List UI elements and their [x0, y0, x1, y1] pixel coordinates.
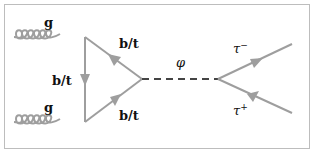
label-quark-left: b/t [52, 74, 72, 87]
label-scalar: φ [176, 56, 185, 69]
gluon-top-line [14, 30, 60, 38]
label-tau-plus: τ+ [233, 103, 248, 117]
label-gluon-bottom: g [44, 101, 53, 114]
label-quark-bottom: b/t [119, 109, 139, 122]
arrow-icon [80, 74, 90, 86]
arrow-icon [110, 94, 121, 106]
label-gluon-top: g [44, 16, 53, 29]
arrow-icon [108, 54, 121, 66]
label-quark-top: b/t [119, 37, 139, 50]
label-tau-minus: τ− [233, 41, 248, 55]
arrow-icon [250, 58, 263, 68]
gluon-bottom-line [14, 115, 60, 123]
